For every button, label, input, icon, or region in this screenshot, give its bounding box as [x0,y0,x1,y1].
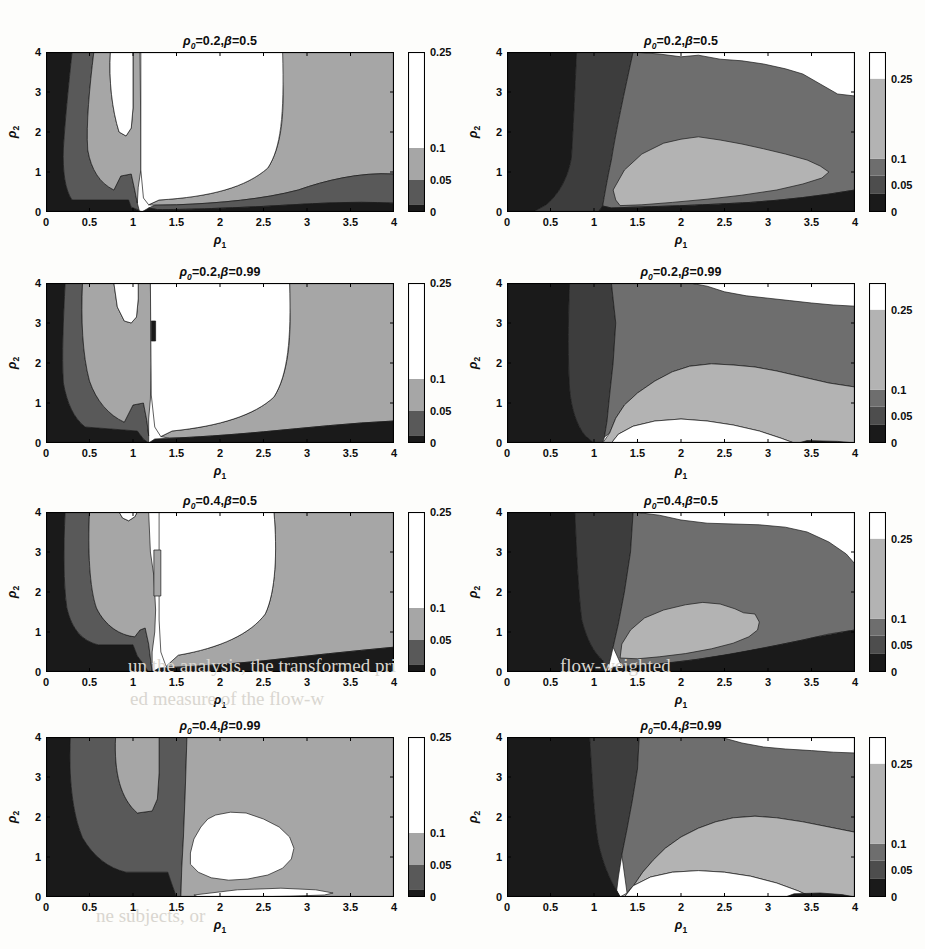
contour-plot-r4c2 [507,737,855,897]
contour-panel-r4c2: ρ0=0.4,β=0.9900.511.522.533.5401234ρ1ρ20… [0,0,925,949]
y-tick-label: 0 [488,891,502,903]
y-axis-label: ρ2 [466,811,483,823]
panel-title-r4c2: ρ0=0.4,β=0.99 [507,719,855,736]
x-tick-label: 2 [678,901,684,913]
x-tick-label: 3.5 [804,901,819,913]
x-tick-label: 1 [591,901,597,913]
x-tick-label: 0.5 [543,901,558,913]
colorbar-band [870,861,886,879]
x-tick-label: 4 [852,901,858,913]
colorbar-tick-label: 0.05 [891,864,912,876]
colorbar-band [870,844,886,861]
x-tick-label: 2.5 [717,901,732,913]
x-tick-label: 1.5 [630,901,645,913]
figure-root: ρ0=0.2,β=0.500.511.522.533.5401234ρ1ρ200… [0,0,925,949]
colorbar-tick-label: 0.25 [891,758,912,770]
colorbar-tick-label: 0.1 [891,838,906,850]
colorbar-band [870,878,886,897]
colorbar-r4c2 [869,737,886,897]
y-tick-label: 3 [488,771,502,783]
x-tick-label: 3 [765,901,771,913]
y-tick-label: 2 [488,811,502,823]
y-tick-label: 1 [488,851,502,863]
x-tick-label: 0 [504,901,510,913]
y-tick-label: 4 [488,731,502,743]
colorbar-tick-label: 0 [891,891,897,903]
x-axis-label: ρ1 [675,918,687,935]
colorbar-band [870,737,886,764]
colorbar-band [870,764,886,844]
